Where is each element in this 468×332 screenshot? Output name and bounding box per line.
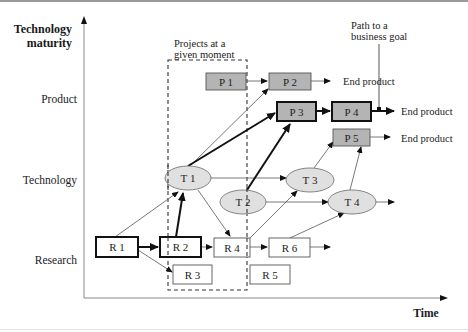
edge-t3-p5 xyxy=(314,142,333,168)
end-product-label-2: End product xyxy=(401,106,453,117)
technology-t3-label: T 3 xyxy=(303,174,318,186)
edge-t4-p5 xyxy=(350,147,361,190)
research-level: R 1 R 2 R 3 R 4 R 5 R 6 xyxy=(96,237,310,284)
end-product-label-3: End product xyxy=(401,133,453,144)
product-p1-label: P 1 xyxy=(219,76,233,88)
product-p3-label: P 3 xyxy=(290,106,304,118)
product-p2: P 2 xyxy=(269,73,311,90)
edge-r6-t4 xyxy=(290,213,344,238)
technology-t2: T 2 xyxy=(220,190,266,214)
edge-t2-p3 xyxy=(247,124,290,190)
roadmap-diagram: Technology maturity Product Technology R… xyxy=(0,0,468,332)
technology-t1-label: T 1 xyxy=(181,172,196,184)
research-r6-label: R 6 xyxy=(282,242,298,254)
research-r1: R 1 xyxy=(96,237,138,257)
technology-t4: T 4 xyxy=(328,190,376,214)
y-axis-title-line2: maturity xyxy=(27,36,72,50)
research-r3-label: R 3 xyxy=(185,269,201,281)
edge-r2-t1 xyxy=(176,193,183,237)
window-annotation-line1: Projects at a xyxy=(174,38,226,49)
y-axis-arrow-icon xyxy=(81,16,87,24)
research-r2: R 2 xyxy=(160,237,201,257)
product-p2-label: P 2 xyxy=(283,76,297,88)
technology-level: T 1 T 2 T 3 T 4 xyxy=(165,166,376,214)
edge-t1-p2 xyxy=(190,89,268,166)
product-p4: P 4 xyxy=(332,102,371,121)
product-p4-label: P 4 xyxy=(345,106,359,118)
technology-t3: T 3 xyxy=(286,168,334,192)
research-r1-label: R 1 xyxy=(109,241,125,253)
research-r6: R 6 xyxy=(269,238,310,257)
product-p1: P 1 xyxy=(206,73,246,90)
level-label-research: Research xyxy=(35,254,77,266)
technology-t4-label: T 4 xyxy=(345,196,360,208)
research-r5: R 5 xyxy=(250,265,290,284)
technology-t1: T 1 xyxy=(165,166,211,190)
level-label-product: Product xyxy=(41,93,78,105)
research-r3: R 3 xyxy=(173,265,212,284)
x-axis-title: Time xyxy=(413,307,438,319)
product-p5-label: P 5 xyxy=(345,132,359,144)
goal-annotation-line2: business goal xyxy=(351,31,407,42)
research-r4: R 4 xyxy=(214,238,250,257)
edge-t1-p3 xyxy=(188,113,275,166)
x-axis-arrow-icon xyxy=(440,295,448,301)
y-axis-title-line1: Technology xyxy=(14,22,72,36)
research-r4-label: R 4 xyxy=(224,242,240,254)
technology-t2-label: T 2 xyxy=(236,196,251,208)
goal-annotation-line1: Path to a xyxy=(351,20,388,31)
end-product-label-1: End product xyxy=(343,76,395,87)
research-r2-label: R 2 xyxy=(173,241,189,253)
diagram-canvas: Technology maturity Product Technology R… xyxy=(0,0,468,332)
window-annotation-line2: given moment xyxy=(174,49,234,60)
product-p5: P 5 xyxy=(333,129,370,146)
research-r5-label: R 5 xyxy=(262,269,278,281)
level-label-technology: Technology xyxy=(23,174,77,187)
product-p3: P 3 xyxy=(277,102,316,121)
axes xyxy=(81,16,448,301)
